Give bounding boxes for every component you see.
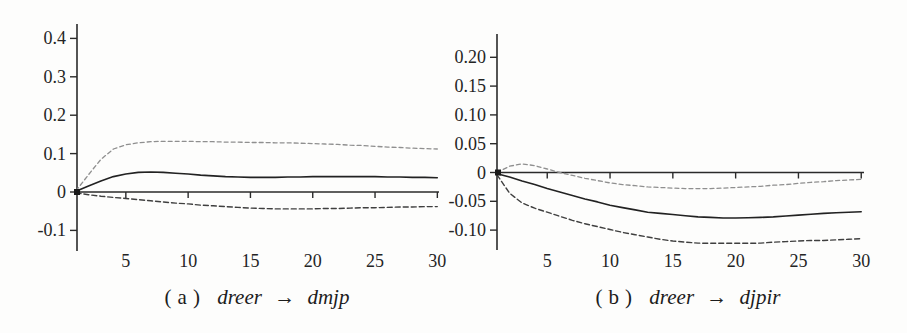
x-tick-label: 30 (428, 251, 446, 271)
charts-canvas: 0.40.30.20.10-0.151015202530 0.200.150.1… (0, 0, 907, 333)
x-tick-label: 10 (179, 251, 197, 271)
panel-b-source-var: dreer (649, 285, 695, 309)
x-tick-label: 15 (241, 251, 259, 271)
irf-curve (76, 172, 437, 191)
y-tick-label: -0.10 (449, 220, 487, 240)
y-tick-label: -0.05 (449, 191, 487, 211)
panel-a-target-var: dmjp (307, 285, 349, 309)
x-tick-label: 30 (852, 251, 870, 271)
x-tick-label: 10 (601, 251, 619, 271)
x-tick-label: 5 (121, 251, 130, 271)
impulse-response-figure: 0.40.30.20.10-0.151015202530 0.200.150.1… (0, 0, 907, 333)
y-tick-label: 0.15 (455, 76, 487, 96)
panel-a-plot: 0.40.30.20.10-0.151015202530 (38, 24, 447, 271)
x-tick-label: 20 (304, 251, 322, 271)
x-tick-label: 25 (366, 251, 384, 271)
panel-b-target-var: djpir (740, 285, 782, 309)
y-tick-label: 0.20 (455, 47, 487, 67)
irf-curve (497, 174, 861, 218)
panel-a-caption: (a) dreer → dmjp (165, 285, 350, 309)
panel-b-plot: 0.200.150.100.050-0.05-0.1051015202530 (449, 34, 871, 271)
y-tick-label: 0.4 (44, 28, 67, 48)
panel-b-arrow-icon: → (706, 285, 727, 309)
panel-b-caption: (b) dreer → djpir (596, 285, 782, 309)
upper-band-curve (497, 164, 861, 189)
x-tick-label: 20 (727, 251, 745, 271)
y-tick-label: 0.10 (455, 105, 487, 125)
panel-a-label: (a) (165, 285, 206, 309)
panel-a-arrow-icon: → (274, 285, 295, 309)
origin-marker (74, 189, 80, 195)
lower-band-curve (497, 175, 861, 244)
y-tick-label: -0.1 (38, 220, 67, 240)
lower-band-curve (76, 193, 437, 209)
x-tick-label: 15 (664, 251, 682, 271)
x-tick-label: 5 (543, 251, 552, 271)
y-tick-label: 0.05 (455, 134, 487, 154)
y-tick-label: 0 (477, 163, 486, 183)
y-tick-label: 0.2 (44, 105, 67, 125)
y-tick-label: 0.1 (44, 144, 67, 164)
x-tick-label: 25 (789, 251, 807, 271)
y-tick-label: 0 (57, 182, 66, 202)
origin-marker (495, 170, 501, 176)
panel-a-source-var: dreer (217, 285, 263, 309)
panel-b-label: (b) (596, 285, 639, 309)
y-tick-label: 0.3 (44, 67, 67, 87)
upper-band-curve (76, 141, 437, 191)
